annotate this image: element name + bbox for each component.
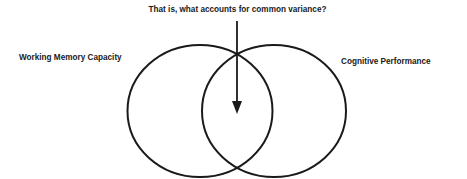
arrow-down-icon: [232, 21, 242, 114]
cognitive-performance-circle: [202, 45, 346, 177]
working-memory-capacity-circle: [128, 45, 273, 177]
venn-diagram: [0, 0, 467, 179]
